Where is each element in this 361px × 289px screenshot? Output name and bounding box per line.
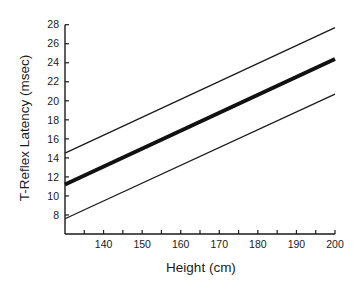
x-tick-label: 150 bbox=[133, 238, 151, 250]
mean-regression-line bbox=[65, 59, 335, 185]
limit-line bbox=[65, 28, 335, 154]
y-tick-label: 8 bbox=[53, 209, 59, 221]
chart: 810121416182022242628 140150160170180190… bbox=[0, 0, 361, 289]
y-tick-label: 24 bbox=[47, 56, 59, 68]
y-tick-label: 12 bbox=[47, 171, 59, 183]
y-axis-label: T-Reflex Latency (msec) bbox=[17, 55, 32, 201]
data-lines bbox=[65, 28, 335, 219]
x-tick-label: 190 bbox=[288, 238, 306, 250]
y-tick-label: 10 bbox=[47, 190, 59, 202]
x-axis: 140150160170180190200 bbox=[65, 230, 344, 250]
y-tick-label: 22 bbox=[47, 75, 59, 87]
y-tick-label: 28 bbox=[47, 18, 59, 30]
y-tick-label: 20 bbox=[47, 95, 59, 107]
x-tick-label: 140 bbox=[95, 238, 113, 250]
y-tick-label: 14 bbox=[47, 152, 59, 164]
y-tick-label: 16 bbox=[47, 133, 59, 145]
limit-line bbox=[65, 94, 335, 219]
x-tick-label: 180 bbox=[249, 238, 267, 250]
x-axis-label: Height (cm) bbox=[166, 260, 236, 275]
y-axis: 810121416182022242628 bbox=[47, 18, 69, 234]
chart-canvas: 810121416182022242628 140150160170180190… bbox=[0, 0, 361, 289]
x-tick-label: 200 bbox=[326, 238, 344, 250]
x-tick-label: 170 bbox=[211, 238, 229, 250]
y-tick-label: 26 bbox=[47, 37, 59, 49]
y-tick-label: 18 bbox=[47, 114, 59, 126]
x-tick-label: 160 bbox=[172, 238, 190, 250]
